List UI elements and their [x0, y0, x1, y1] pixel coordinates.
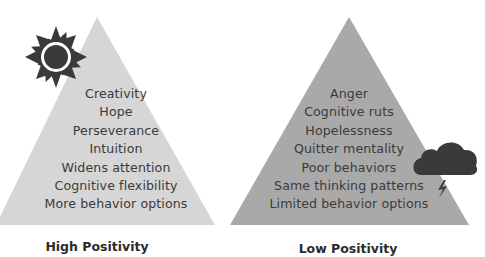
- list-item: Limited behavior options: [249, 195, 449, 213]
- list-item: Hopelessness: [249, 122, 449, 140]
- list-item: Same thinking patterns: [249, 177, 449, 195]
- list-item: Hope: [16, 103, 216, 121]
- list-item: Perseverance: [16, 122, 216, 140]
- low-positivity-caption: Low Positivity: [268, 241, 428, 256]
- low-positivity-list: Anger Cognitive ruts Hopelessness Quitte…: [249, 85, 449, 214]
- list-item: More behavior options: [16, 195, 216, 213]
- list-item: Poor behaviors: [249, 159, 449, 177]
- list-item: Intuition: [16, 140, 216, 158]
- high-positivity-caption: High Positivity: [17, 239, 177, 254]
- list-item: Cognitive ruts: [249, 103, 449, 121]
- high-positivity-list: Creativity Hope Perseverance Intuition W…: [16, 85, 216, 214]
- list-item: Creativity: [16, 85, 216, 103]
- list-item: Cognitive flexibility: [16, 177, 216, 195]
- positivity-comparison-diagram: Creativity Hope Perseverance Intuition W…: [0, 0, 485, 257]
- list-item: Anger: [249, 85, 449, 103]
- list-item: Widens attention: [16, 159, 216, 177]
- list-item: Quitter mentality: [249, 140, 449, 158]
